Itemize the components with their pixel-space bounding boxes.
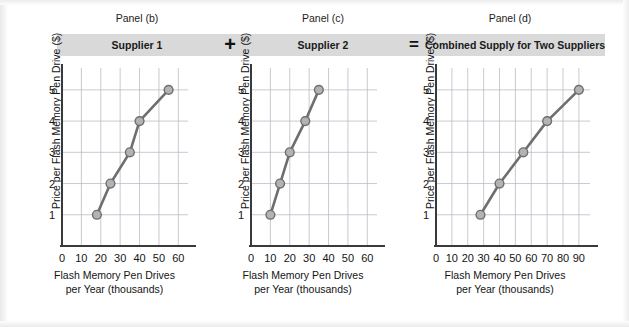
svg-text:0: 0 [248, 252, 254, 264]
header-band: Supplier 1 + Supplier 2 = Combined Suppl… [57, 34, 605, 56]
plot-area-d: 123450102030405060708090 [390, 62, 615, 272]
svg-text:50: 50 [342, 252, 354, 264]
svg-text:1: 1 [238, 209, 244, 221]
plot-area-b: 123450102030405060 [16, 62, 216, 272]
svg-text:5: 5 [423, 84, 429, 96]
svg-text:0: 0 [433, 252, 439, 264]
svg-text:1: 1 [49, 209, 55, 221]
x-axis-label-d-line1: Flash Memory Pen Drives [445, 269, 566, 281]
svg-text:5: 5 [49, 84, 55, 96]
page-edge-top [0, 0, 629, 5]
svg-text:10: 10 [75, 252, 87, 264]
panel-caption-row: Panel (b) Panel (c) Panel (d) [0, 12, 629, 28]
svg-text:50: 50 [153, 252, 165, 264]
svg-text:30: 30 [114, 252, 126, 264]
band-title-supplier-1: Supplier 1 [57, 34, 217, 56]
x-axis-label-c-line2: per Year (thousands) [213, 282, 393, 296]
svg-text:2: 2 [49, 178, 55, 190]
x-axis-label-d-line2: per Year (thousands) [410, 282, 600, 296]
x-axis-label-b: Flash Memory Pen Drives per Year (thousa… [22, 268, 207, 296]
svg-text:10: 10 [446, 252, 458, 264]
svg-text:3: 3 [423, 146, 429, 158]
svg-text:3: 3 [238, 146, 244, 158]
x-axis-label-c-line1: Flash Memory Pen Drives [243, 269, 364, 281]
panel-caption-d: Panel (d) [425, 12, 595, 24]
svg-text:10: 10 [264, 252, 276, 264]
figure-page: Panel (b) Panel (c) Panel (d) Supplier 1… [0, 0, 629, 327]
svg-text:40: 40 [133, 252, 145, 264]
svg-text:5: 5 [238, 84, 244, 96]
svg-text:2: 2 [423, 178, 429, 190]
equals-operator-icon: = [403, 34, 425, 56]
band-title-supplier-2: Supplier 2 [243, 34, 403, 56]
svg-text:30: 30 [303, 252, 315, 264]
svg-text:90: 90 [573, 252, 585, 264]
chart-panel-d: Price per Flash Memory Pen Drive ($) 123… [390, 62, 615, 312]
svg-text:4: 4 [423, 115, 429, 127]
svg-text:70: 70 [541, 252, 553, 264]
svg-text:0: 0 [59, 252, 65, 264]
svg-text:20: 20 [284, 252, 296, 264]
svg-text:2: 2 [238, 178, 244, 190]
x-axis-label-c: Flash Memory Pen Drives per Year (thousa… [213, 268, 393, 296]
x-axis-label-b-line2: per Year (thousands) [22, 282, 207, 296]
svg-text:50: 50 [509, 252, 521, 264]
chart-panel-b: Price per Flash Memory Pen Drive ($) 123… [16, 62, 216, 312]
svg-text:20: 20 [462, 252, 474, 264]
panel-caption-c: Panel (c) [243, 12, 403, 24]
chart-panel-c: Price per Flash Memory Pen Drive ($) 123… [205, 62, 400, 312]
band-title-combined-supply: Combined Supply for Two Suppliers [425, 34, 605, 56]
plot-area-c: 123450102030405060 [205, 62, 400, 272]
svg-text:30: 30 [478, 252, 490, 264]
svg-text:4: 4 [49, 115, 55, 127]
svg-text:60: 60 [525, 252, 537, 264]
svg-text:60: 60 [172, 252, 184, 264]
svg-text:4: 4 [238, 115, 244, 127]
svg-text:40: 40 [322, 252, 334, 264]
svg-text:20: 20 [95, 252, 107, 264]
panel-caption-b: Panel (b) [57, 12, 217, 24]
page-edge-bottom [0, 321, 629, 327]
svg-text:80: 80 [557, 252, 569, 264]
svg-text:3: 3 [49, 146, 55, 158]
page-edge-right [623, 0, 629, 327]
x-axis-label-d: Flash Memory Pen Drives per Year (thousa… [410, 268, 600, 296]
page-edge-left [0, 0, 7, 327]
svg-text:40: 40 [493, 252, 505, 264]
svg-text:60: 60 [361, 252, 373, 264]
x-axis-label-b-line1: Flash Memory Pen Drives [54, 269, 175, 281]
svg-text:1: 1 [423, 209, 429, 221]
